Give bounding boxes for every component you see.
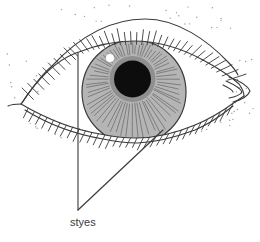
catchlight-highlight [106, 54, 114, 62]
outer-canthus-crease [223, 85, 233, 92]
eye-illustration: styes [0, 0, 260, 242]
inner-canthus-line [8, 104, 21, 106]
pupil [114, 61, 151, 98]
outer-canthus-fold-inner [226, 81, 242, 98]
outer-canthus-fold [229, 77, 250, 102]
eyeball [82, 40, 186, 144]
stye-label: styes [70, 216, 96, 228]
eye-diagram: styes [0, 0, 260, 242]
